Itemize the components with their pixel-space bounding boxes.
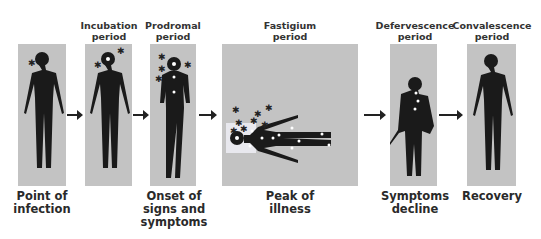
stage-title-prodromal: Prodromal period <box>143 20 203 42</box>
arrow-icon <box>439 110 463 120</box>
arrow-icon <box>364 110 386 120</box>
svg-text:✱: ✱ <box>230 126 238 136</box>
germ-icon: ✱ <box>158 52 166 62</box>
panel-fastigium: ✱✱✱ ✱✱✱ ✱✱ <box>222 44 358 186</box>
stage-title-fastigium: Fastigium period <box>255 20 325 42</box>
svg-text:✱: ✱ <box>250 116 258 126</box>
caption-symptoms-decline: Symptoms decline <box>380 190 450 216</box>
stage-title-convalescence: Convalescence period <box>452 20 532 42</box>
recovering-person-icon <box>390 44 437 186</box>
svg-text:✱: ✱ <box>232 105 240 115</box>
germ-icon: ✱ <box>94 60 102 70</box>
germ-icon: ✱ <box>158 64 166 74</box>
panel-point-of-infection: ✱ <box>18 44 66 186</box>
bedridden-person-icon: ✱✱✱ ✱✱✱ ✱✱ <box>222 44 358 186</box>
panel-incubation: ✱ ✱ <box>85 44 132 186</box>
arrow-icon <box>199 110 217 120</box>
stage-title-incubation: Incubation period <box>78 20 140 42</box>
caption-recovery: Recovery <box>460 190 524 203</box>
caption-onset: Onset of signs and symptoms <box>140 190 208 229</box>
panel-prodromal: ✱ ✱ ✱ ✱ <box>150 44 196 186</box>
panel-defervescence <box>390 44 437 186</box>
svg-text:✱: ✱ <box>240 124 248 134</box>
svg-text:✱: ✱ <box>265 103 273 113</box>
caption-point-of-infection: Point of infection <box>8 190 76 216</box>
svg-text:✱: ✱ <box>261 120 269 130</box>
caption-peak: Peak of illness <box>255 190 325 216</box>
arrow-icon <box>133 110 149 120</box>
germ-icon: ✱ <box>117 46 125 56</box>
standing-person-icon: ✱ <box>18 44 66 186</box>
stage-title-defervescence: Defervescence period <box>375 20 455 42</box>
standing-person-icon <box>467 44 516 186</box>
germ-icon: ✱ <box>28 58 36 68</box>
germ-icon: ✱ <box>184 60 192 70</box>
arrow-icon <box>67 110 83 120</box>
panel-convalescence <box>467 44 516 186</box>
germ-icon: ✱ <box>155 74 163 84</box>
standing-person-icon: ✱ ✱ <box>85 44 132 186</box>
sick-person-icon: ✱ ✱ ✱ ✱ <box>150 44 196 186</box>
